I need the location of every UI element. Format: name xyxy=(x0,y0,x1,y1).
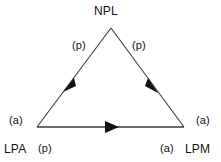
arrowhead-lpa-to-lpm xyxy=(105,121,119,133)
vertex-mark-a-above-lpa: (a) xyxy=(9,115,23,126)
vertex-mark-a-below-lpm: (a) xyxy=(160,143,174,154)
arrowhead-npl-to-lpm xyxy=(145,78,158,93)
vertex-mark-p-below-lpa: (p) xyxy=(38,143,52,154)
node-label-lpa: LPA xyxy=(4,143,26,155)
arrowhead-npl-to-lpa xyxy=(63,78,76,92)
diagram-canvas: NPL (p) (p) (a) (a) LPA (p) (a) LPM xyxy=(0,0,221,162)
edge-label-npl-to-lpm: (p) xyxy=(132,40,146,51)
node-label-lpm: LPM xyxy=(185,143,210,155)
node-label-npl: NPL xyxy=(94,5,118,17)
triangle-diagram-graphic xyxy=(0,0,221,162)
vertex-mark-a-above-lpm: (a) xyxy=(196,115,210,126)
edge-label-npl-to-lpa: (p) xyxy=(72,40,86,51)
edge-npl-to-lpm xyxy=(111,28,184,127)
